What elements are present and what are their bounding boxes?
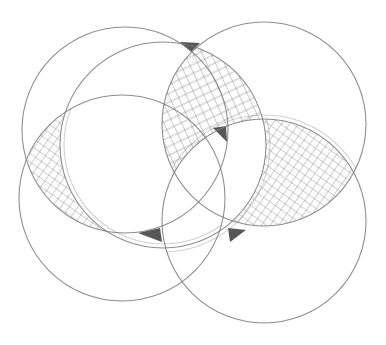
dark-triangle-bottom-right — [228, 228, 246, 242]
overlapping-circles-sketch — [0, 0, 386, 345]
